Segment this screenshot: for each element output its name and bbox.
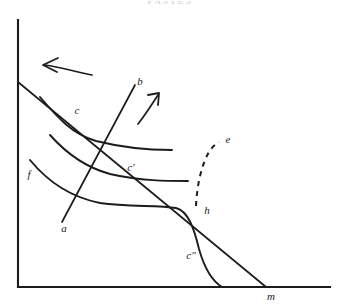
upward-right-direction-arrow bbox=[138, 93, 159, 124]
figure-page: PASTES a b c c′ bbox=[0, 0, 340, 308]
axes-group bbox=[18, 20, 330, 287]
curve-ab-line bbox=[62, 85, 135, 222]
economics-figure: a b c c′ c″ e f h m bbox=[0, 0, 340, 308]
label-c-prime: c′ bbox=[127, 161, 135, 173]
curve-f bbox=[30, 160, 222, 287]
label-f: f bbox=[27, 168, 32, 180]
label-e: e bbox=[226, 133, 231, 145]
curve-eh-dashed bbox=[196, 142, 219, 206]
curve-c-prime bbox=[50, 135, 188, 181]
label-b: b bbox=[137, 75, 143, 87]
label-c: c bbox=[75, 104, 80, 116]
label-h: h bbox=[204, 204, 210, 216]
label-a: a bbox=[61, 222, 67, 234]
label-c-double-prime: c″ bbox=[186, 249, 196, 261]
leftward-direction-arrow bbox=[43, 58, 92, 75]
label-m: m bbox=[267, 290, 275, 302]
